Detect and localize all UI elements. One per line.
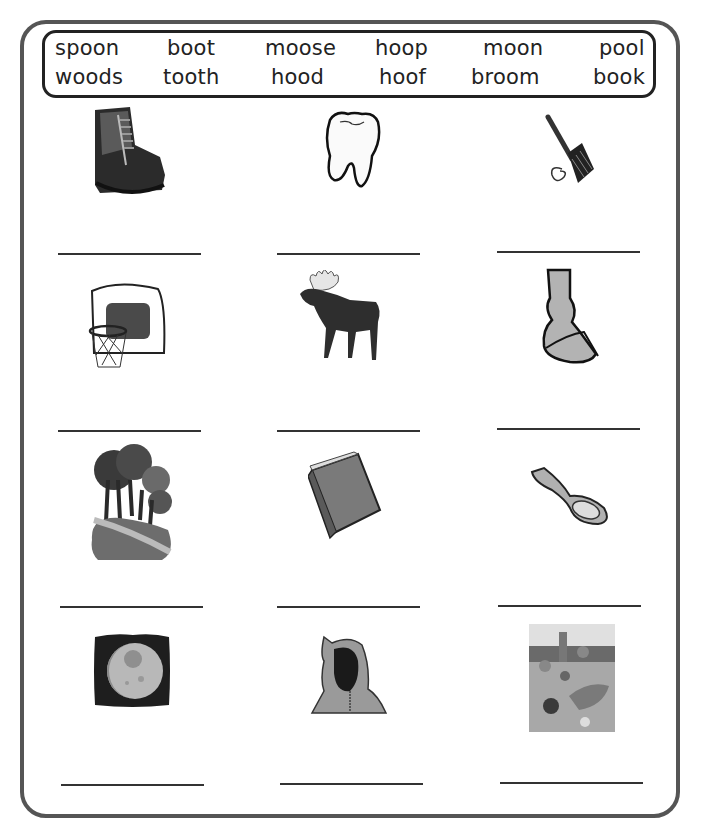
answer-line-11[interactable] — [280, 783, 423, 785]
answer-line-12[interactable] — [500, 782, 643, 784]
word-hoof: hoof — [379, 65, 426, 89]
answer-line-5[interactable] — [277, 430, 420, 432]
word-moose: moose — [265, 36, 336, 60]
boot-icon — [90, 105, 170, 197]
word-tooth: tooth — [163, 65, 219, 89]
word-bank-row-1: spoon boot moose hoop moon pool — [45, 36, 653, 66]
word-hood: hood — [271, 65, 324, 89]
word-bank: spoon boot moose hoop moon pool woods to… — [42, 30, 656, 98]
hoof-icon — [540, 268, 606, 368]
answer-line-6[interactable] — [497, 428, 640, 430]
word-hoop: hoop — [375, 36, 428, 60]
answer-line-2[interactable] — [277, 253, 420, 255]
pool-scene-icon — [529, 624, 615, 732]
word-woods: woods — [55, 65, 123, 89]
answer-line-4[interactable] — [58, 430, 201, 432]
broom-icon — [542, 113, 602, 197]
answer-line-7[interactable] — [60, 606, 203, 608]
tooth-icon — [322, 110, 384, 192]
woods-icon — [90, 440, 174, 564]
answer-line-9[interactable] — [498, 605, 641, 607]
word-broom: broom — [471, 65, 540, 89]
word-moon: moon — [483, 36, 543, 60]
word-bank-row-2: woods tooth hood hoof broom book — [45, 65, 653, 95]
book-icon — [308, 450, 384, 542]
moose-icon — [296, 270, 386, 366]
answer-line-3[interactable] — [497, 251, 640, 253]
basketball-hoop-icon — [88, 283, 168, 371]
answer-line-10[interactable] — [61, 784, 204, 786]
word-pool: pool — [599, 36, 645, 60]
word-spoon: spoon — [55, 36, 119, 60]
answer-line-1[interactable] — [58, 253, 201, 255]
spoon-icon — [528, 464, 614, 534]
moon-icon — [93, 633, 171, 709]
word-book: book — [593, 65, 645, 89]
hood-icon — [310, 635, 390, 717]
word-boot: boot — [167, 36, 215, 60]
answer-line-8[interactable] — [277, 606, 420, 608]
